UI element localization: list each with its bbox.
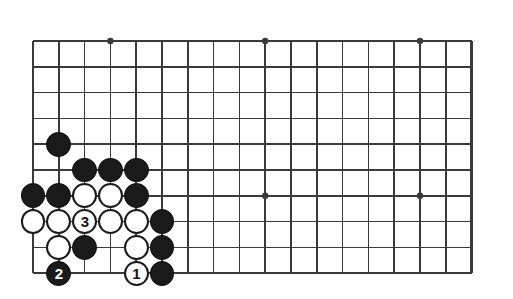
star-point — [417, 193, 423, 199]
stone-black[interactable] — [98, 158, 123, 183]
stone-black[interactable] — [150, 261, 175, 286]
stone-black[interactable] — [150, 235, 175, 260]
stone-white-move-1[interactable]: 1 — [124, 261, 149, 286]
stone-white[interactable] — [46, 209, 71, 234]
stone-black[interactable] — [46, 132, 71, 157]
star-point — [262, 38, 268, 44]
stone-white[interactable] — [72, 183, 97, 208]
stone-move-number: 1 — [132, 265, 140, 280]
stone-white[interactable] — [124, 209, 149, 234]
star-point — [417, 38, 423, 44]
grid-lines — [33, 41, 472, 273]
stone-white[interactable] — [46, 235, 71, 260]
stone-black[interactable] — [72, 158, 97, 183]
stone-black-move-2[interactable]: 2 — [46, 261, 71, 286]
stone-black[interactable] — [124, 183, 149, 208]
stone-white-move-3[interactable]: 3 — [72, 209, 97, 234]
stone-move-number: 3 — [81, 214, 89, 229]
star-point — [107, 38, 113, 44]
star-point — [262, 193, 268, 199]
stone-white[interactable] — [21, 209, 46, 234]
stone-white[interactable] — [98, 183, 123, 208]
stone-white[interactable] — [98, 209, 123, 234]
stone-move-number: 2 — [55, 265, 63, 280]
stone-black[interactable] — [150, 209, 175, 234]
go-board-diagram: 321 — [0, 0, 513, 299]
stone-black[interactable] — [72, 235, 97, 260]
stone-white[interactable] — [124, 235, 149, 260]
stone-black[interactable] — [124, 158, 149, 183]
